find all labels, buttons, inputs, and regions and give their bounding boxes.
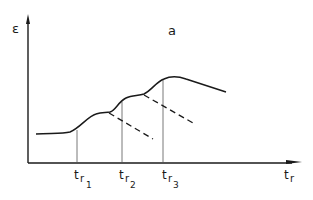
y-axis-arrow-icon <box>26 14 30 24</box>
panel-label: a <box>168 23 176 38</box>
svg-text:t: t <box>119 168 124 182</box>
svg-text:t: t <box>74 168 79 182</box>
marker-label-tr1: t r 1 <box>74 168 92 190</box>
svg-text:t: t <box>162 168 167 182</box>
marker-label-tr3: t r 3 <box>162 168 179 190</box>
x-axis-arrow-icon <box>286 160 302 164</box>
svg-text:1: 1 <box>86 180 92 190</box>
svg-text:r: r <box>80 173 85 184</box>
y-axis-label: ε <box>12 21 19 36</box>
svg-text:t: t <box>284 168 289 182</box>
svg-text:r: r <box>290 173 295 184</box>
x-axis-label: t r <box>284 168 295 184</box>
dashed-decay-1 <box>109 113 153 139</box>
dashed-decay-2 <box>144 95 193 123</box>
svg-text:3: 3 <box>173 180 179 190</box>
marker-label-tr2: t r 2 <box>119 168 136 190</box>
strain-time-diagram: ε a t r 1 t r 2 t r 3 t r <box>0 0 313 200</box>
svg-text:2: 2 <box>130 180 136 190</box>
